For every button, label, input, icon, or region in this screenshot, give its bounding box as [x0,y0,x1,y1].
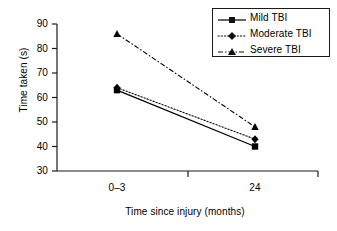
legend-label-severe-tbi: Severe TBI [250,44,301,56]
y-tick-label-30: 30 [22,165,48,176]
series-moderate-tbi [113,84,258,143]
series-line-moderate-tbi [117,88,255,139]
legend-label-mild-tbi: Mild TBI [250,12,287,24]
legend-swatch-dashdot-triangle-icon [217,44,247,56]
legend: Mild TBI Moderate TBI Severe TBI [212,8,330,57]
legend-item-moderate-tbi[interactable]: Moderate TBI [217,26,329,42]
legend-item-mild-tbi[interactable]: Mild TBI [217,10,329,26]
series-mild-tbi [114,87,258,150]
data-point-severe-tbi-1 [251,123,258,130]
data-point-mild-tbi-0 [114,87,120,93]
legend-swatch-dotted-diamond-icon [217,28,247,40]
x-tick-label-24: 24 [225,182,285,193]
legend-swatch-solid-square-icon [217,12,247,24]
y-axis-title: Time taken (s) [18,10,30,150]
data-point-mild-tbi-1 [252,143,258,149]
legend-item-severe-tbi[interactable]: Severe TBI [217,42,329,58]
series-line-mild-tbi [117,90,255,146]
y-axis-ticks [52,24,57,171]
x-tick-label-0-3: 0–3 [87,182,147,193]
data-point-severe-tbi-0 [113,30,120,37]
legend-label-moderate-tbi: Moderate TBI [250,28,312,40]
x-axis-title: Time since injury (months) [40,206,330,218]
data-point-moderate-tbi-1 [251,135,258,143]
chart-figure: 90 80 70 60 50 40 30 0–3 24 Time taken (… [0,0,337,231]
x-axis-ticks [188,171,318,177]
